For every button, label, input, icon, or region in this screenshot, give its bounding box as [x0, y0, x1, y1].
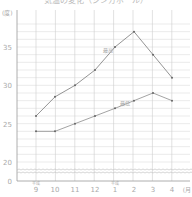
data-point: [114, 107, 116, 109]
data-point: [152, 54, 154, 56]
data-point: [171, 100, 173, 102]
data-point: [54, 96, 56, 98]
series-label-min: 最低: [120, 100, 130, 107]
data-point: [114, 46, 116, 48]
data-point: [94, 115, 96, 117]
data-point: [152, 92, 154, 94]
y-tick-label: 30: [3, 82, 12, 90]
x-tick-annotation: 平成: [32, 180, 40, 186]
x-tick-annotation: 平成: [111, 180, 119, 186]
x-tick-label: 2: [132, 186, 136, 194]
x-axis-unit: (月: [183, 186, 191, 194]
series-line-1: [36, 93, 172, 131]
x-tick-label: 4: [170, 186, 175, 194]
x-tick-label: 9: [34, 186, 38, 194]
x-tick-label: 10: [51, 186, 60, 194]
series-line-0: [36, 32, 172, 116]
chart-container: 気温の変化（シンガポール） 020253035(度)9平成1011121平成23…: [0, 0, 192, 197]
data-point: [35, 130, 37, 132]
data-point: [133, 31, 135, 33]
axis-break-line: [17, 172, 192, 173]
axis-break-line: [17, 169, 192, 170]
y-tick-label: 0: [8, 178, 12, 186]
y-tick-label: 25: [3, 121, 12, 129]
y-axis-unit: (度): [2, 9, 13, 17]
data-point: [35, 115, 37, 117]
data-point: [133, 100, 135, 102]
data-point: [171, 77, 173, 79]
data-point: [54, 130, 56, 132]
y-tick-label: 35: [3, 44, 12, 52]
x-tick-label: 3: [151, 186, 155, 194]
y-tick-label: 20: [3, 159, 12, 167]
x-tick-label: 12: [91, 186, 100, 194]
data-point: [74, 123, 76, 125]
x-tick-label: 1: [113, 186, 117, 194]
series-label-max: 最高: [103, 47, 113, 54]
data-point: [74, 84, 76, 86]
x-tick-label: 11: [71, 186, 80, 194]
data-point: [94, 69, 96, 71]
line-chart: 020253035(度)9平成1011121平成234(月最高最低: [0, 0, 192, 197]
